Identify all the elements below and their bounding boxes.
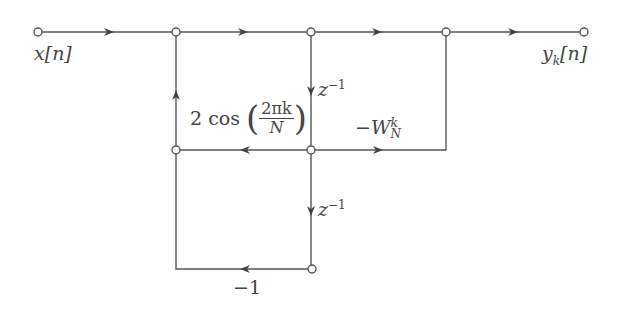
delay-label-1: z−1 (318, 78, 346, 100)
node-input (34, 28, 42, 36)
node (308, 265, 316, 273)
twiddle-label: −WkN (355, 116, 401, 140)
delay-label-2: z−1 (318, 198, 346, 220)
input-label: x[n] (34, 42, 72, 64)
node-output (580, 28, 588, 36)
flow-graph (0, 0, 627, 315)
minus-one-label: −1 (233, 276, 261, 298)
node (307, 146, 315, 154)
branch-minus-one (176, 154, 308, 269)
node (172, 146, 180, 154)
node (172, 28, 180, 36)
cos-gain-label: 2 cos (2πkN) (190, 98, 307, 138)
node (442, 28, 450, 36)
node (307, 28, 315, 36)
output-label: yk[n] (542, 42, 587, 68)
